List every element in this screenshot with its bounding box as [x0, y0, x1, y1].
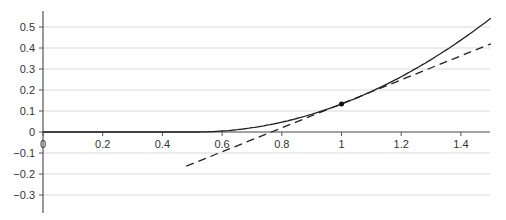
- x-tick-label: 1.4: [453, 138, 468, 150]
- axes: [39, 11, 490, 213]
- x-tick-label: 0.8: [274, 138, 289, 150]
- gridlines: [43, 27, 490, 195]
- chart: 0.50.40.30.20.10−0.1−0.2−0.3 00.20.40.60…: [0, 0, 506, 220]
- y-tick-label: 0.3: [20, 63, 35, 75]
- tangent-point: [339, 102, 344, 107]
- annotations: [339, 102, 344, 107]
- x-tick-label: 1: [338, 138, 344, 150]
- y-tick-label: −0.2: [13, 168, 35, 180]
- y-tick-label: −0.3: [13, 189, 35, 201]
- y-tick-label: 0.2: [20, 84, 35, 96]
- y-tick-label: −0.1: [13, 147, 35, 159]
- x-tick-label: 0.6: [214, 138, 229, 150]
- y-tick-label: 0: [29, 126, 35, 138]
- x-tick-label: 0.4: [155, 138, 170, 150]
- x-axis-tick-labels: 00.20.40.60.811.21.4: [40, 138, 469, 150]
- x-tick-label: 0: [40, 138, 46, 150]
- y-tick-label: 0.5: [20, 21, 35, 33]
- y-tick-label: 0.4: [20, 42, 35, 54]
- x-tick-label: 0.2: [95, 138, 110, 150]
- function-curve: [43, 18, 491, 132]
- x-tick-label: 1.2: [394, 138, 409, 150]
- y-tick-label: 0.1: [20, 105, 35, 117]
- y-axis-tick-labels: 0.50.40.30.20.10−0.1−0.2−0.3: [13, 21, 35, 201]
